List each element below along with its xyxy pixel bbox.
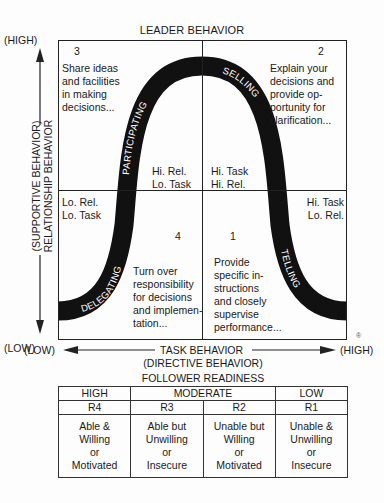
combo-line: Lo. Rel. xyxy=(62,196,101,209)
horizontal-divider xyxy=(58,190,347,191)
arrow-up-icon xyxy=(36,48,44,62)
quadrant-3-number: 3 xyxy=(74,45,80,58)
combo-line: Lo. Task xyxy=(152,178,191,191)
desc-line: in making xyxy=(62,88,120,101)
readiness-levels-row: HIGH MODERATE LOW xyxy=(59,387,348,401)
desc-line: performance... xyxy=(214,321,282,334)
desc-line: Motivated xyxy=(204,459,275,472)
combo-line: Lo. Rel. xyxy=(290,209,344,222)
desc-line: Turn over xyxy=(133,265,202,278)
desc-line: or xyxy=(276,446,347,459)
follower-readiness-table: HIGH MODERATE LOW R4 R3 R2 R1 Able & Wil… xyxy=(58,386,348,478)
desc-line: Provide xyxy=(214,256,282,269)
desc-line: provide op- xyxy=(270,88,343,101)
quadrant-3-combo: Hi. Rel. Lo. Task xyxy=(152,165,191,191)
code-r2: R2 xyxy=(203,401,275,415)
desc-line: or xyxy=(59,446,130,459)
quadrant-4-combo: Lo. Rel. Lo. Task xyxy=(62,196,101,222)
readiness-codes-row: R4 R3 R2 R1 xyxy=(59,401,348,415)
quadrant-1-combo: Hi. Task Lo. Rel. xyxy=(290,196,344,222)
desc-line: tation... xyxy=(133,317,202,330)
desc-line: or xyxy=(131,446,202,459)
desc-line: responsibility xyxy=(133,278,202,291)
desc-line: Unwilling xyxy=(276,433,347,446)
quadrant-1-number: 1 xyxy=(230,230,236,243)
combo-line: Lo. Task xyxy=(62,209,101,222)
desc-r1: Unable & Unwilling or Insecure xyxy=(275,415,347,478)
desc-line: Insecure xyxy=(276,459,347,472)
registered-mark: ® xyxy=(356,332,361,339)
y-axis-title: (SUPPORTIVE BEHAVIOR) RELATIONSHIP BEHAV… xyxy=(30,86,54,286)
desc-line: and closely xyxy=(214,295,282,308)
level-low: LOW xyxy=(275,387,347,401)
desc-line: clarification... xyxy=(270,114,343,127)
quadrant-4-number: 4 xyxy=(175,230,181,243)
desc-line: Motivated xyxy=(59,459,130,472)
desc-line: Willing xyxy=(204,433,275,446)
combo-line: Hi. Task xyxy=(211,165,248,178)
desc-r2: Unable but Willing or Motivated xyxy=(203,415,275,478)
quadrant-2-number: 2 xyxy=(318,45,324,58)
desc-line: Insecure xyxy=(131,459,202,472)
desc-line: Explain your xyxy=(270,62,343,75)
desc-r4: Able & Willing or Motivated xyxy=(59,415,131,478)
desc-line: structions xyxy=(214,282,282,295)
desc-line: Unwilling xyxy=(131,433,202,446)
desc-line: Able & xyxy=(59,420,130,433)
level-high: HIGH xyxy=(59,387,131,401)
code-r3: R3 xyxy=(131,401,203,415)
arrow-down-icon xyxy=(36,320,44,334)
desc-line: or xyxy=(204,446,275,459)
combo-line: Hi. Rel. xyxy=(152,165,191,178)
desc-line: portunity for xyxy=(270,101,343,114)
desc-line: specific in- xyxy=(214,269,282,282)
quadrant-3-description: Share ideas and facilities in making dec… xyxy=(62,62,120,114)
y-axis-title-line2: RELATIONSHIP BEHAVIOR xyxy=(42,86,54,286)
desc-line: supervise xyxy=(214,308,282,321)
quadrant-4-description: Turn over responsibility for decisions a… xyxy=(133,265,202,330)
desc-line: Willing xyxy=(59,433,130,446)
quadrant-2-description: Explain your decisions and provide op- p… xyxy=(270,62,343,127)
desc-line: Unable & xyxy=(276,420,347,433)
x-axis-low-label: (LOW) xyxy=(24,344,55,357)
combo-line: Hi. Task xyxy=(290,196,344,209)
y-axis-title-line1: (SUPPORTIVE BEHAVIOR) xyxy=(30,86,42,286)
desc-line: and implemen- xyxy=(133,304,202,317)
arrow-left-icon xyxy=(63,346,78,354)
desc-line: Unable but xyxy=(204,420,275,433)
desc-line: and facilities xyxy=(62,75,120,88)
x-axis-high-label: (HIGH) xyxy=(340,344,373,357)
x-axis-title-line1: TASK BEHAVIOR xyxy=(160,344,243,357)
level-moderate: MODERATE xyxy=(131,387,276,401)
code-r1: R1 xyxy=(275,401,347,415)
x-axis-title-line2: (DIRECTIVE BEHAVIOR) xyxy=(0,357,384,370)
desc-line: decisions... xyxy=(62,101,120,114)
desc-line: Able but xyxy=(131,420,202,433)
code-r4: R4 xyxy=(59,401,131,415)
combo-line: Hi. Rel. xyxy=(211,178,248,191)
desc-line: Share ideas xyxy=(62,62,120,75)
quadrant-1-description: Provide specific in- structions and clos… xyxy=(214,256,282,334)
desc-line: for decisions xyxy=(133,291,202,304)
desc-line: decisions and xyxy=(270,75,343,88)
follower-readiness-title: FOLLOWER READINESS xyxy=(0,372,384,385)
desc-r3: Able but Unwilling or Insecure xyxy=(131,415,203,478)
quadrant-2-combo: Hi. Task Hi. Rel. xyxy=(211,165,248,191)
readiness-descriptions-row: Able & Willing or Motivated Able but Unw… xyxy=(59,415,348,478)
arrow-right-icon xyxy=(320,346,336,354)
